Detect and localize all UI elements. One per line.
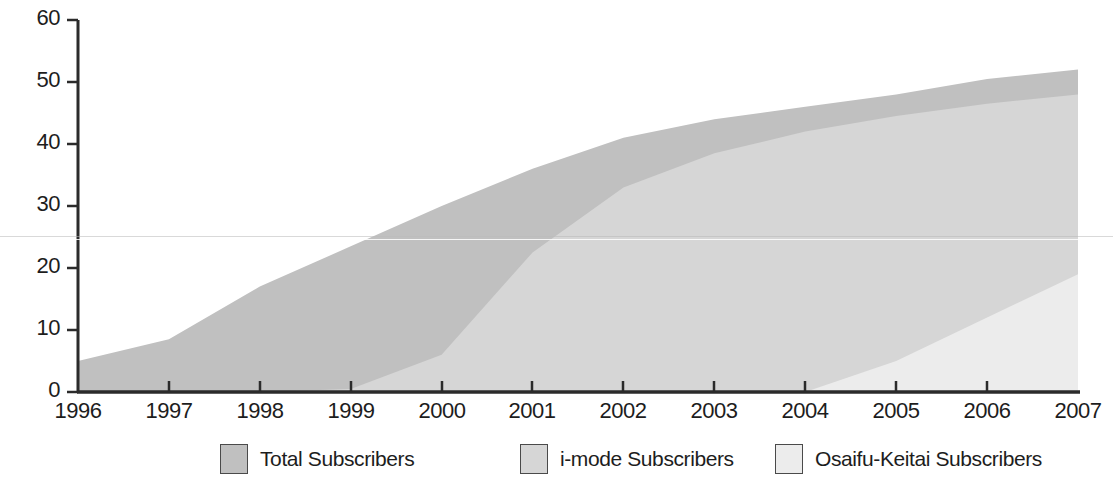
x-tick-label-2004: 2004	[765, 398, 845, 424]
x-tick-label-2000: 2000	[402, 398, 482, 424]
x-tick-label-1999: 1999	[311, 398, 391, 424]
legend-label-osaifu: Osaifu-Keitai Subscribers	[815, 447, 1042, 471]
y-tick-label-40: 40	[8, 129, 60, 155]
legend-label-imode: i-mode Subscribers	[560, 447, 734, 471]
x-tick-label-1996: 1996	[38, 398, 118, 424]
chart-legend: Total Subscribers i-mode Subscribers Osa…	[0, 440, 1113, 480]
legend-item-osaifu[interactable]: Osaifu-Keitai Subscribers	[775, 442, 1042, 476]
x-tick-label-2003: 2003	[674, 398, 754, 424]
x-tick-label-2002: 2002	[583, 398, 663, 424]
y-tick-label-60: 60	[8, 5, 60, 31]
legend-swatch-total	[220, 444, 248, 474]
x-tick-label-2001: 2001	[492, 398, 572, 424]
legend-swatch-osaifu	[775, 444, 803, 474]
x-tick-label-1998: 1998	[220, 398, 300, 424]
legend-item-total[interactable]: Total Subscribers	[220, 442, 414, 476]
chart-area-bands	[78, 70, 1078, 392]
y-tick-label-10: 10	[8, 315, 60, 341]
y-tick-label-20: 20	[8, 253, 60, 279]
legend-swatch-imode	[520, 444, 548, 474]
legend-item-imode[interactable]: i-mode Subscribers	[520, 442, 734, 476]
y-tick-label-50: 50	[8, 67, 60, 93]
x-tick-label-2005: 2005	[856, 398, 936, 424]
legend-label-total: Total Subscribers	[260, 447, 414, 471]
x-tick-label-1997: 1997	[129, 398, 209, 424]
x-tick-label-2007: 2007	[1038, 398, 1113, 424]
chart-figure: (million) 0102030405060 1996199719981999…	[0, 0, 1113, 494]
y-tick-label-30: 30	[8, 191, 60, 217]
x-tick-label-2006: 2006	[947, 398, 1027, 424]
